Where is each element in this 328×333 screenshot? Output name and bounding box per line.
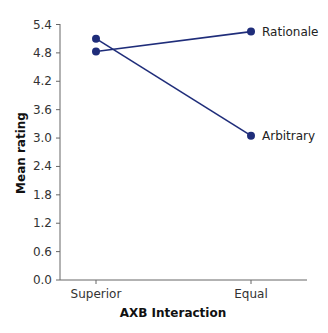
x-axis-title: AXB Interaction: [120, 306, 227, 320]
y-axis-title: Mean rating: [14, 112, 28, 194]
data-point: [92, 35, 100, 43]
y-tick-label: 3.6: [33, 103, 52, 117]
line-chart: 0.00.61.21.82.43.03.64.24.85.4 SuperiorE…: [0, 0, 328, 333]
series-label: Rationale: [262, 25, 318, 39]
data-point: [92, 47, 100, 55]
y-tick-label: 0.0: [33, 273, 52, 287]
y-tick-label: 0.6: [33, 245, 52, 259]
x-tick-label: Superior: [71, 287, 122, 301]
y-tick-label: 4.2: [33, 74, 52, 88]
y-tick-label: 2.4: [33, 159, 52, 173]
y-tick-label: 5.4: [33, 18, 52, 32]
y-tick-label: 1.8: [33, 188, 52, 202]
y-tick-label: 3.0: [33, 131, 52, 145]
series-label: Arbitrary: [262, 129, 315, 143]
data-point: [247, 28, 255, 36]
y-tick-label: 1.2: [33, 216, 52, 230]
y-tick-label: 4.8: [33, 46, 52, 60]
x-tick-label: Equal: [234, 287, 268, 301]
y-axis-ticks: 0.00.61.21.82.43.03.64.24.85.4: [33, 18, 60, 288]
series-lines: RationaleArbitrary: [92, 25, 318, 143]
data-point: [247, 132, 255, 140]
series-line: [96, 32, 251, 52]
x-axis-ticks: SuperiorEqual: [71, 280, 268, 301]
series-line: [96, 39, 251, 136]
